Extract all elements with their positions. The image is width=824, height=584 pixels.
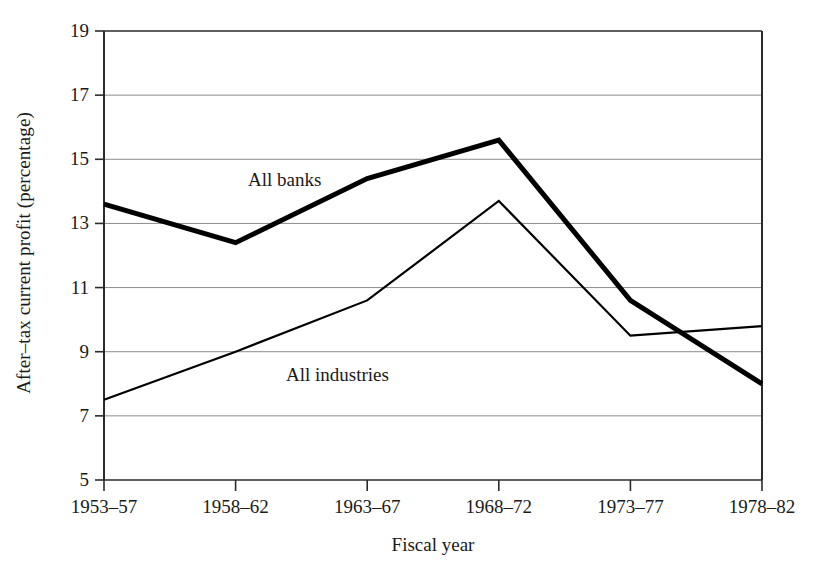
y-tick-label: 19 xyxy=(43,21,89,40)
series-line-all-banks xyxy=(104,140,762,384)
axis-frame xyxy=(104,31,762,480)
x-tick-label: 1958–62 xyxy=(166,497,306,516)
x-tick-label: 1968–72 xyxy=(429,497,569,516)
y-tick-label: 15 xyxy=(43,149,89,168)
series-label: All industries xyxy=(286,365,389,384)
y-tick-label: 11 xyxy=(43,278,89,297)
x-tick-label: 1953–57 xyxy=(34,497,174,516)
series-label: All banks xyxy=(248,170,321,189)
axis-ticks xyxy=(95,31,762,491)
x-tick-label: 1973–77 xyxy=(560,497,700,516)
chart-figure: After–tax current profit (percentage) Fi… xyxy=(0,0,824,584)
y-axis-label: After–tax current profit (percentage) xyxy=(13,0,35,513)
x-axis-label: Fiscal year xyxy=(104,534,762,556)
x-tick-label: 1963–67 xyxy=(297,497,437,516)
y-tick-label: 9 xyxy=(43,342,89,361)
y-tick-label: 13 xyxy=(43,213,89,232)
y-tick-label: 17 xyxy=(43,85,89,104)
y-tick-label: 5 xyxy=(43,470,89,489)
y-tick-label: 7 xyxy=(43,406,89,425)
x-tick-label: 1978–82 xyxy=(692,497,824,516)
gridlines xyxy=(104,95,762,416)
series-lines xyxy=(104,140,762,400)
